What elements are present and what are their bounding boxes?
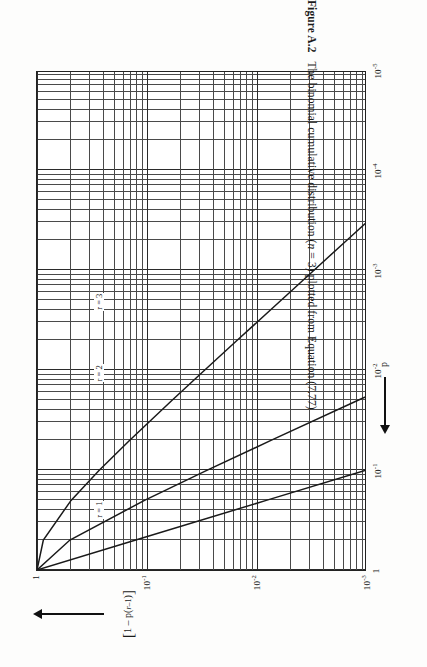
curve-label-r3: r = 3: [94, 293, 104, 311]
figure-caption-text: The binomial cumulative distribution (n …: [306, 61, 318, 409]
x-axis-title-text: p: [378, 362, 389, 367]
arrow-up-icon: [40, 613, 104, 615]
figure-caption: Figure A.2 The binomial cumulative distr…: [292, 0, 318, 667]
y-tick-label: 10-1: [140, 575, 152, 597]
curve-label-r1: r = 1: [94, 501, 104, 519]
x-tick-label: 10-5: [371, 63, 383, 78]
x-axis-title: p: [378, 362, 389, 367]
x-tick-label: 10-4: [371, 163, 383, 178]
figure-page: 110-110-210-310-410-5 110-110-210-3 r = …: [0, 0, 427, 667]
figure-number: Figure A.2: [306, 0, 318, 53]
x-tick-label: 10-1: [371, 463, 383, 478]
curve-label-r2: r = 2: [94, 364, 104, 382]
x-tick-label: 1: [371, 569, 381, 574]
y-tick-label: 1: [31, 575, 41, 597]
y-tick-label: 10-3: [360, 575, 372, 597]
x-tick-label: 10-3: [371, 263, 383, 278]
y-tick-label: 10-2: [250, 575, 262, 597]
y-axis-title-text: [1 – p(r–1)]: [120, 590, 137, 638]
y-axis-title: [1 – p(r–1)]: [120, 579, 137, 649]
arrow-left-icon: [384, 377, 386, 425]
rotated-figure-container: 110-110-210-310-410-5 110-110-210-3 r = …: [0, 0, 427, 667]
